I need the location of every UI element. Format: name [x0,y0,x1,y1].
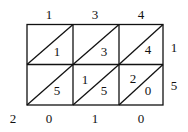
cell-tens-digit: 1 [78,73,92,86]
lattice-multiplication-diagram: 1 3 4 1 5 1 3 4 5 1 5 2 0 2 0 1 0 [0,0,188,132]
result-digit: 0 [42,112,56,125]
multiplicand-digit: 1 [42,8,56,21]
result-digit: 1 [88,112,102,125]
result-digit: 2 [6,112,20,125]
cell-ones-digit: 0 [141,84,155,97]
cell-ones-digit: 3 [97,45,111,58]
multiplier-digit: 1 [167,41,181,54]
multiplicand-digit: 4 [134,8,148,21]
multiplicand-digit: 3 [88,8,102,21]
cell-tens-digit: 2 [126,72,140,85]
cell-ones-digit: 5 [50,84,64,97]
diagonal [73,25,119,65]
cell-ones-digit: 4 [141,43,155,56]
cell-ones-digit: 1 [50,45,64,58]
cell-ones-digit: 5 [97,84,111,97]
result-digit: 0 [134,112,148,125]
multiplier-digit: 5 [167,79,181,92]
